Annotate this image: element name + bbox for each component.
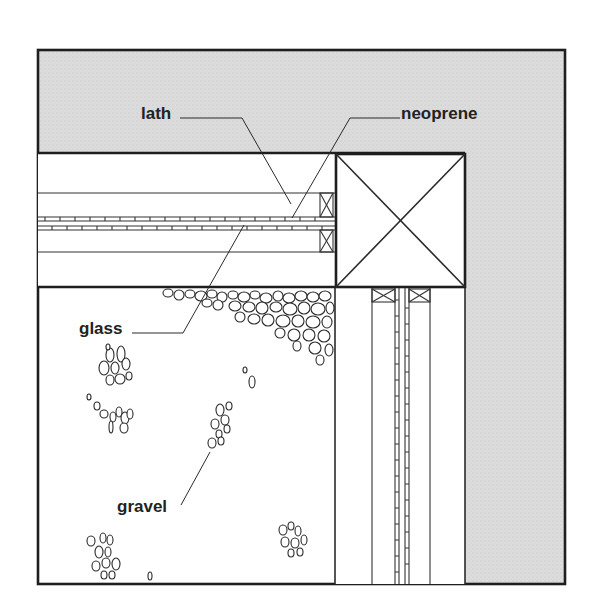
gravel-cluster [99, 344, 132, 385]
label-gravel: gravel [117, 497, 167, 516]
label-lath: lath [141, 104, 171, 123]
soil-right-band [465, 153, 565, 584]
gravel-leader [181, 452, 210, 505]
diagram-canvas: lath neoprene glass gravel [0, 0, 599, 615]
gravel-cluster [208, 402, 232, 448]
gravel-pile-corner [163, 289, 334, 365]
gravel-cluster [279, 522, 307, 557]
soil-top-band [38, 50, 565, 153]
gravel-stone [148, 572, 152, 580]
corner-post [336, 154, 465, 287]
label-neoprene: neoprene [401, 104, 478, 123]
label-glass: glass [79, 319, 122, 338]
vertical-wall [335, 153, 465, 584]
gravel-cluster [87, 394, 133, 433]
gravel-cluster [87, 533, 120, 579]
gravel-cluster [243, 367, 255, 388]
gravel-bed [87, 289, 334, 580]
